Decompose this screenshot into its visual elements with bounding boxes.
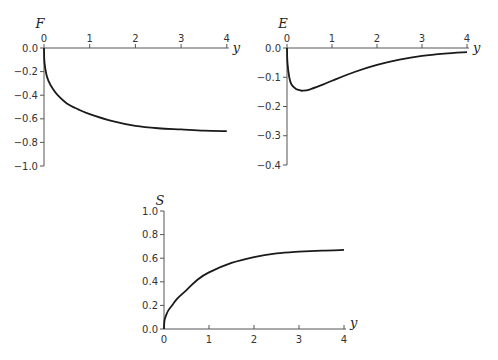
chart-e: 0.0−0.1−0.2−0.3−0.401234Ey — [257, 16, 481, 171]
x-tick-label: 2 — [132, 33, 138, 44]
y-tick-label: −0.2 — [14, 66, 38, 77]
y-tick-label: −0.2 — [257, 101, 281, 112]
x-tick-label: 1 — [329, 33, 335, 44]
y-variable-label: E — [277, 16, 288, 31]
x-variable-label: y — [232, 40, 241, 55]
chart-f: 0.0−0.2−0.4−0.6−0.8−1.001234Fy — [14, 16, 241, 172]
y-tick-label: 0.2 — [142, 300, 158, 311]
y-tick-label: 0.8 — [142, 229, 158, 240]
x-tick-label: 0 — [161, 334, 167, 345]
curve-s — [164, 250, 344, 329]
y-variable-label: F — [34, 16, 45, 31]
x-tick-label: 4 — [341, 334, 347, 345]
x-tick-label: 2 — [251, 334, 257, 345]
x-tick-label: 4 — [224, 33, 230, 44]
x-tick-label: 1 — [87, 33, 93, 44]
x-variable-label: y — [349, 315, 358, 330]
x-tick-label: 0 — [41, 33, 47, 44]
x-tick-label: 2 — [374, 33, 380, 44]
y-tick-label: 0.0 — [142, 324, 158, 335]
y-tick-label: −0.6 — [14, 113, 38, 124]
y-tick-label: −0.1 — [257, 72, 281, 83]
x-tick-label: 3 — [419, 33, 425, 44]
curve-e — [287, 48, 467, 91]
y-tick-label: −0.4 — [14, 90, 38, 101]
x-tick-label: 3 — [296, 334, 302, 345]
figure-canvas: 0.0−0.2−0.4−0.6−0.8−1.001234Fy0.0−0.1−0.… — [0, 0, 498, 360]
x-tick-label: 1 — [206, 334, 212, 345]
y-tick-label: −0.3 — [257, 130, 281, 141]
y-tick-label: −0.8 — [14, 137, 38, 148]
x-tick-label: 0 — [284, 33, 290, 44]
y-tick-label: 0.0 — [265, 43, 281, 54]
x-variable-label: y — [472, 40, 481, 55]
chart-s: 0.00.20.40.60.81.001234Sy — [142, 193, 358, 345]
x-tick-label: 3 — [178, 33, 184, 44]
y-tick-label: −1.0 — [14, 161, 38, 172]
y-variable-label: S — [156, 193, 165, 208]
y-tick-label: 0.4 — [142, 276, 158, 287]
y-tick-label: −0.4 — [257, 160, 281, 171]
y-tick-label: 0.6 — [142, 253, 158, 264]
curve-f — [44, 48, 227, 131]
x-tick-label: 4 — [464, 33, 470, 44]
y-tick-label: 0.0 — [22, 43, 38, 54]
